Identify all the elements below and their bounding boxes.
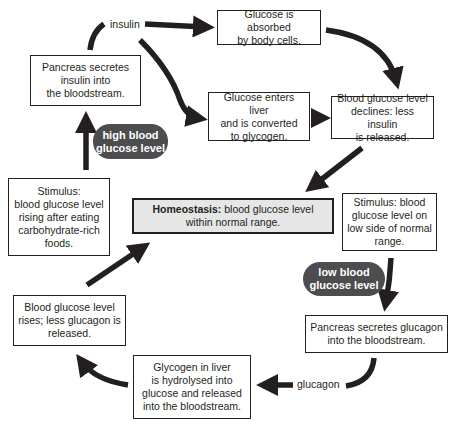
pancreas-insulin-box: Pancreas secretes insulin into the blood… <box>30 55 141 106</box>
absorbed-line-1: Glucose is absorbed <box>222 8 316 34</box>
declines-line-1: Blood glucose level <box>336 92 429 105</box>
hydrolysed-line-4: into the bloodstream. <box>142 400 242 413</box>
liver-line-3: to glycogen. <box>213 130 305 143</box>
absorbed-line-2: by body cells. <box>222 34 316 47</box>
high-pill-line-2: glucose level <box>96 142 165 155</box>
stimulus-high-box: Stimulus: blood glucose level rising aft… <box>8 178 110 256</box>
stimulus-high-line-3: rising after eating <box>14 211 103 224</box>
hydrolysed-line-2: is hydrolysed into <box>142 374 242 387</box>
rises-line-1: Blood glucose level <box>18 301 121 314</box>
stimulus-low-line-1: Stimulus: blood <box>347 196 432 209</box>
stimulus-high-line-1: Stimulus: <box>14 185 103 198</box>
hydrolysed-line-3: glucose and released <box>142 387 242 400</box>
arrow-pancreas-to-glucagon <box>346 358 374 386</box>
stimulus-high-line-5: foods. <box>14 237 103 250</box>
high-blood-glucose-badge: high blood glucose level <box>93 124 168 159</box>
stimulus-low-line-4: range. <box>347 235 432 248</box>
pancreas-insulin-line-2: insulin into <box>42 74 129 87</box>
declines-line-3: is released. <box>336 131 429 144</box>
pancreas-glucagon-line-1: Pancreas secretes glucagon <box>310 321 443 334</box>
stimulus-low-line-3: low side of normal <box>347 222 432 235</box>
glucose-enters-liver-box: Glucose enters liver and is converted to… <box>208 92 310 141</box>
pancreas-glucagon-line-2: into the bloodstream. <box>310 334 443 347</box>
liver-line-2: and is converted <box>213 117 305 130</box>
hydrolysed-line-1: Glycogen in liver <box>142 361 242 374</box>
rises-line-2: rises; less glucagon is <box>18 314 121 327</box>
low-blood-glucose-badge: low blood glucose level <box>303 262 385 296</box>
homeostasis-bold-label: Homeostasis: <box>152 203 221 215</box>
arrow-insulin-to-absorbed <box>145 24 205 27</box>
arrow-pancreas-to-insulin <box>90 24 104 50</box>
stimulus-high-line-4: carbohydrate-rich <box>14 224 103 237</box>
arrow-declines-to-homeostasis <box>313 148 362 186</box>
glucagon-label: glucagon <box>297 378 340 391</box>
homeostasis-box: Homeostasis: blood glucose level within … <box>132 198 334 234</box>
stimulus-high-line-2: blood glucose level <box>14 198 103 211</box>
low-pill-line-1: low blood <box>309 266 378 279</box>
high-pill-line-1: high blood <box>96 129 165 142</box>
stimulus-low-line-2: glucose level on <box>347 209 432 222</box>
homeostasis-line-2: within normal range. <box>152 216 313 229</box>
pancreas-insulin-line-3: the bloodstream. <box>42 87 129 100</box>
liver-line-1: Glucose enters liver <box>213 91 305 117</box>
declines-line-2: declines: less insulin <box>336 105 429 131</box>
arrow-stimulus-low-to-pancreas <box>386 258 391 302</box>
low-pill-line-2: glucose level <box>309 279 378 292</box>
stimulus-low-box: Stimulus: blood glucose level on low sid… <box>342 193 437 251</box>
glycogen-hydrolysed-box: Glycogen in liver is hydrolysed into glu… <box>133 355 251 419</box>
arrow-liver-to-rises <box>82 362 128 385</box>
glucose-absorbed-box: Glucose is absorbed by body cells. <box>217 10 321 45</box>
glucose-declines-box: Blood glucose level declines: less insul… <box>331 96 434 139</box>
glucose-rises-box: Blood glucose level rises; less glucagon… <box>13 295 126 346</box>
pancreas-insulin-line-1: Pancreas secretes <box>42 61 129 74</box>
rises-line-3: released. <box>18 327 121 340</box>
insulin-label: insulin <box>110 18 140 31</box>
pancreas-glucagon-box: Pancreas secretes glucagon into the bloo… <box>305 315 448 353</box>
arrow-absorbed-to-declines <box>326 30 396 80</box>
homeostasis-line-1: blood glucose level <box>221 203 313 215</box>
arrow-insulin-to-liver <box>140 40 198 118</box>
